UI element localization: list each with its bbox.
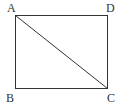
diagonal-AC [16,16,108,89]
rectangle-diagram: A D B C [0,0,125,112]
vertex-label-c: C [107,91,115,105]
vertex-label-b: B [6,91,14,105]
vertex-label-d: D [106,1,115,15]
vertex-label-a: A [7,1,16,15]
